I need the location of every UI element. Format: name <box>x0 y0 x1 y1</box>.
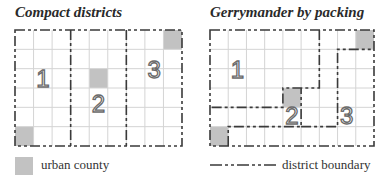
legend-boundary-label: district boundary <box>282 157 370 173</box>
urban-county-swatch <box>15 157 33 175</box>
district-label: 2 <box>285 102 298 129</box>
district-boundary-line-sample <box>209 160 277 170</box>
urban-county-cell <box>356 30 374 49</box>
district-label: 3 <box>340 102 353 129</box>
district-label: 1 <box>231 56 244 83</box>
urban-county-cell <box>210 127 228 146</box>
legend-urban-label: urban county <box>41 157 109 173</box>
